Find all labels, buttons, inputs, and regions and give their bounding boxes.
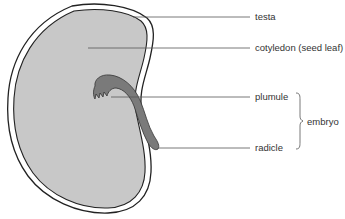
label-testa: testa (255, 11, 276, 22)
seed-diagram: testa cotyledon (seed leaf) plumule radi… (0, 0, 345, 219)
embryo-brace (296, 93, 303, 149)
label-plumule: plumule (255, 91, 288, 102)
label-embryo: embryo (307, 116, 339, 127)
label-radicle: radicle (255, 142, 283, 153)
label-cotyledon: cotyledon (seed leaf) (255, 42, 343, 53)
